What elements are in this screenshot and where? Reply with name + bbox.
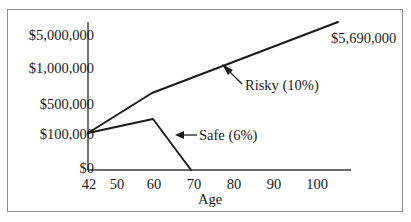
y-tick-label-500000: $500,000 bbox=[14, 97, 94, 112]
x-tick-label-80: 80 bbox=[227, 177, 242, 192]
x-tick-label-100: 100 bbox=[306, 177, 328, 192]
y-tick-label-100000: $100,000 bbox=[14, 127, 94, 142]
chart-figure: $5,000,000 $1,000,000 $500,000 $100,000 … bbox=[0, 0, 411, 222]
x-tick-label-90: 90 bbox=[267, 177, 282, 192]
y-tick-label-5000000: $5,000,000 bbox=[14, 28, 94, 43]
x-tick-label-42: 42 bbox=[82, 177, 97, 192]
annotation-safe: Safe (6%) bbox=[199, 128, 257, 143]
annotation-risky: Risky (10%) bbox=[245, 78, 319, 93]
series-line-safe bbox=[88, 119, 191, 170]
y-tick-label-1000000: $1,000,000 bbox=[14, 61, 94, 76]
safe-annotation-arrowhead bbox=[175, 131, 184, 139]
x-tick-label-50: 50 bbox=[110, 177, 125, 192]
y-tick-label-0: $0 bbox=[14, 161, 94, 176]
x-tick-label-60: 60 bbox=[147, 177, 162, 192]
endpoint-label-risky: $5,690,000 bbox=[331, 31, 396, 46]
x-axis-title: Age bbox=[198, 192, 222, 207]
x-tick-label-70: 70 bbox=[187, 177, 202, 192]
